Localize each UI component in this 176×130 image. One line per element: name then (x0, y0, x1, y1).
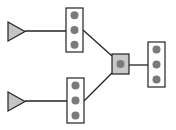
hub-square-icon[interactable] (112, 54, 129, 74)
source-top-triangle-icon[interactable] (8, 22, 25, 41)
port-dot-icon (153, 61, 161, 69)
port-dot-icon (72, 112, 80, 120)
port-dot-icon (153, 76, 161, 84)
port-box-bottom-node[interactable] (67, 78, 84, 123)
port-dot-icon (71, 26, 79, 34)
port-dot-icon (71, 11, 79, 19)
source-bottom-triangle-icon[interactable] (8, 92, 25, 111)
port-box-right-node[interactable] (148, 42, 165, 87)
port-dot-icon (153, 46, 161, 54)
network-diagram (0, 0, 176, 130)
port-dot-icon (117, 60, 125, 68)
port-dot-icon (71, 41, 79, 49)
edge-port-box-bottom-to-hub (84, 73, 112, 101)
edge-port-box-top-to-hub (83, 30, 112, 56)
port-dot-icon (72, 97, 80, 105)
port-dot-icon (72, 82, 80, 90)
port-box-top-node[interactable] (66, 8, 83, 52)
